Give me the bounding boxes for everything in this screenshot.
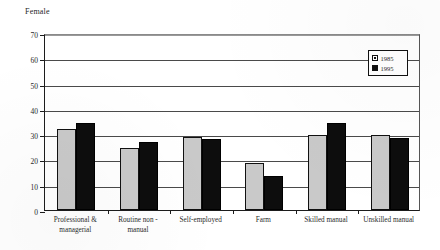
x-axis-tick-4 — [296, 210, 297, 214]
x-axis-label-6: Unskilled manual — [351, 216, 426, 226]
gridline-70 — [45, 35, 419, 36]
plot-area: 010203040506070 — [44, 34, 420, 211]
bar-1995-3 — [202, 139, 221, 210]
x-axis-tick-1 — [108, 210, 109, 214]
bar-1995-5 — [327, 123, 346, 210]
x-axis-tick-2 — [170, 210, 171, 214]
y-axis-tick-70 — [40, 35, 45, 36]
y-axis-tick-10 — [40, 187, 45, 188]
bar-1985-5 — [308, 135, 327, 210]
chart-legend: 1985 1995 — [368, 50, 408, 76]
legend-item-1995: 1995 — [372, 63, 405, 73]
y-axis-tick-60 — [40, 60, 45, 61]
bar-1985-3 — [183, 137, 202, 210]
bar-1995-2 — [139, 142, 158, 210]
bar-1985-1 — [57, 129, 76, 210]
gridline-30 — [45, 136, 419, 137]
legend-swatch-1995-icon — [372, 65, 378, 71]
y-axis-label-40: 40 — [31, 106, 39, 115]
bar-1985-4 — [245, 163, 264, 210]
y-axis-label-30: 30 — [31, 132, 39, 141]
x-axis-tick-5 — [358, 210, 359, 214]
legend-item-1985: 1985 — [372, 53, 405, 63]
y-axis-label-10: 10 — [31, 182, 39, 191]
bar-1985-6 — [371, 135, 390, 210]
legend-swatch-1985-icon — [372, 55, 378, 61]
y-axis-tick-20 — [40, 161, 45, 162]
gridline-10 — [45, 187, 419, 188]
y-axis-tick-50 — [40, 86, 45, 87]
legend-label-1985: 1985 — [381, 55, 394, 62]
bar-1995-4 — [264, 176, 283, 210]
gridline-60 — [45, 60, 419, 61]
bar-1985-2 — [120, 148, 139, 210]
y-axis-tick-30 — [40, 136, 45, 137]
y-axis-label-50: 50 — [31, 81, 39, 90]
y-axis-label-20: 20 — [31, 157, 39, 166]
legend-label-1995: 1995 — [381, 65, 394, 72]
x-axis-tick-3 — [233, 210, 234, 214]
y-axis-tick-40 — [40, 111, 45, 112]
chart-title: Female — [25, 7, 50, 16]
y-axis-label-60: 60 — [31, 56, 39, 65]
y-axis-label-70: 70 — [31, 31, 39, 40]
bar-1995-6 — [390, 138, 409, 210]
y-axis-tick-0 — [40, 212, 45, 213]
gridline-50 — [45, 86, 419, 87]
bar-1995-1 — [76, 123, 95, 210]
gridline-20 — [45, 161, 419, 162]
gridline-40 — [45, 111, 419, 112]
bar-chart: Female 010203040506070 1985 1995 Profess… — [0, 0, 440, 250]
